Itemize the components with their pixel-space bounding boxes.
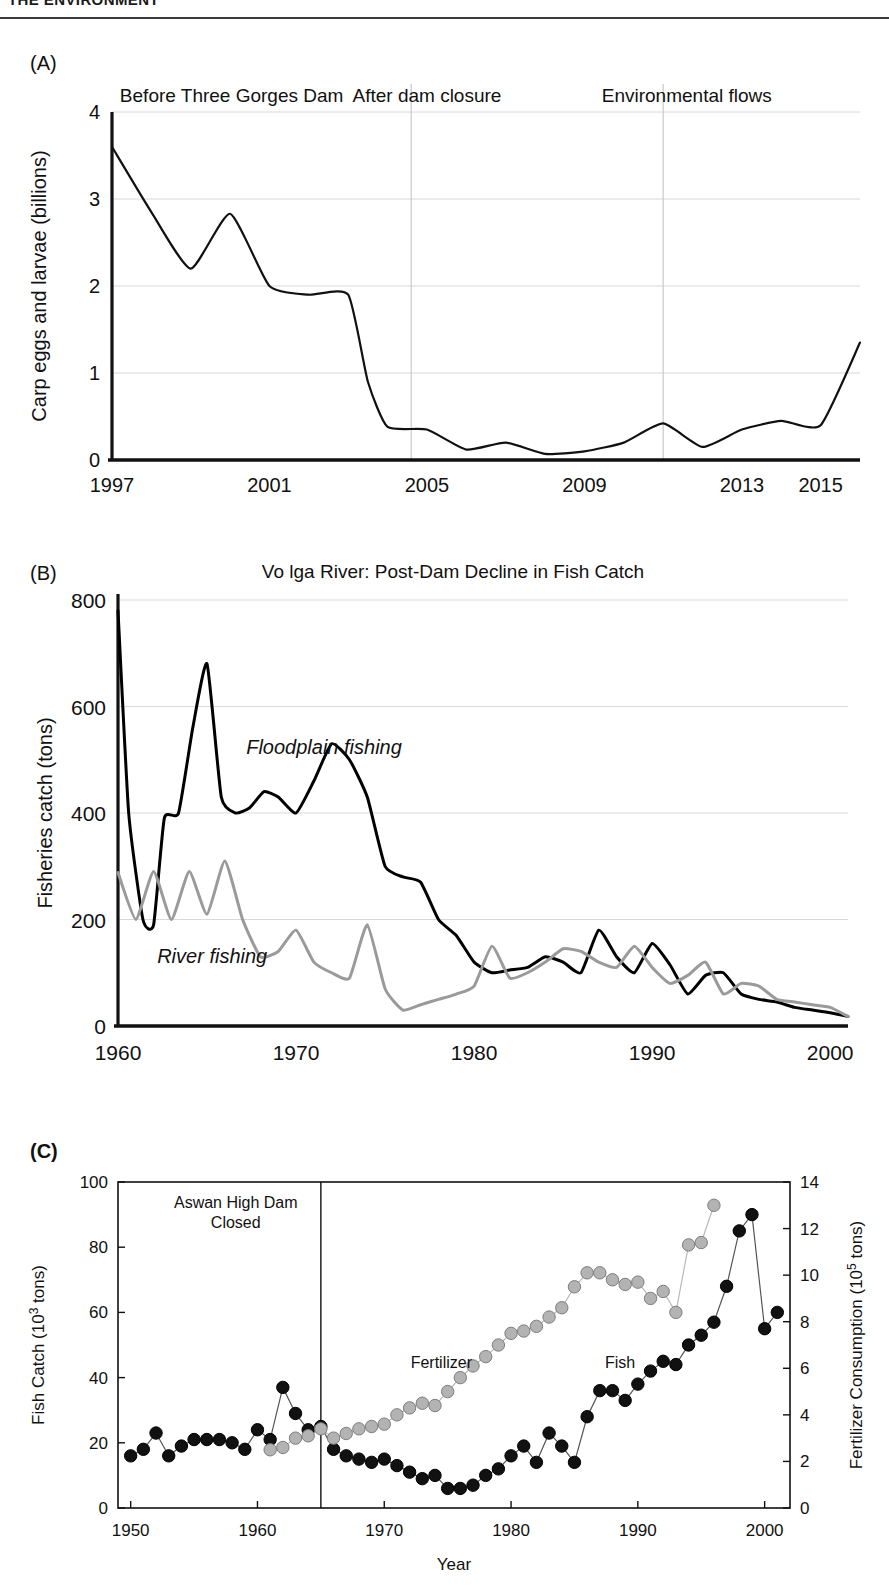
marker-fish <box>226 1437 238 1449</box>
marker-fertilizer <box>315 1423 327 1435</box>
x-tick-label-b: 1980 <box>451 1041 498 1064</box>
marker-fish <box>327 1443 339 1455</box>
x-tick-label-a: 2013 <box>720 474 765 496</box>
marker-fertilizer <box>441 1385 453 1397</box>
marker-fish <box>695 1329 707 1341</box>
y-tick-label-c-left: 0 <box>99 1499 108 1518</box>
y-tick-label-c-right: 0 <box>800 1499 809 1518</box>
marker-fertilizer <box>657 1285 669 1297</box>
y-tick-label-c-right: 10 <box>800 1266 819 1285</box>
marker-fish <box>581 1411 593 1423</box>
marker-fish <box>378 1453 390 1465</box>
marker-fish <box>188 1433 200 1445</box>
marker-fertilizer <box>568 1281 580 1293</box>
marker-fish <box>720 1280 732 1292</box>
marker-fertilizer <box>682 1239 694 1251</box>
marker-fish <box>429 1469 441 1481</box>
marker-fish <box>150 1427 162 1439</box>
marker-fish <box>518 1440 530 1452</box>
marker-fish <box>277 1381 289 1393</box>
y-tick-label-a: 1 <box>89 362 100 384</box>
marker-fish <box>758 1323 770 1335</box>
marker-fish <box>556 1440 568 1452</box>
marker-fertilizer <box>429 1399 441 1411</box>
marker-fertilizer <box>543 1311 555 1323</box>
series-line-carp <box>112 147 860 454</box>
marker-fish <box>644 1365 656 1377</box>
marker-fertilizer <box>340 1427 352 1439</box>
header-rule <box>0 17 889 19</box>
x-tick-label-a: 1997 <box>90 474 135 496</box>
x-tick-label-a: 2005 <box>405 474 450 496</box>
marker-fertilizer <box>492 1339 504 1351</box>
marker-fish <box>479 1469 491 1481</box>
marker-fertilizer <box>302 1430 314 1442</box>
marker-fertilizer <box>505 1327 517 1339</box>
marker-fish <box>682 1339 694 1351</box>
marker-fertilizer <box>594 1267 606 1279</box>
x-tick-label-a: 2015 <box>798 474 843 496</box>
y-tick-label-c-right: 8 <box>800 1313 809 1332</box>
marker-fish <box>670 1358 682 1370</box>
y-tick-label-c-right: 2 <box>800 1452 809 1471</box>
marker-fertilizer <box>606 1274 618 1286</box>
figure-page: THE ENVIRONMENT (A) 01234199720012005200… <box>0 0 889 1585</box>
chart-c-body: 0204060801000246810121419501960197019801… <box>27 1173 866 1574</box>
y-tick-label-b: 800 <box>71 589 106 612</box>
y-tick-label-c-right: 12 <box>800 1220 819 1239</box>
marker-fish <box>632 1378 644 1390</box>
series-label-fish: Fish <box>605 1354 635 1371</box>
y-tick-label-a: 0 <box>89 449 100 471</box>
marker-fish <box>239 1443 251 1455</box>
annotation-aswan-line1: Aswan High Dam <box>174 1194 298 1211</box>
x-axis-title-c: Year <box>437 1555 472 1574</box>
marker-fish <box>606 1384 618 1396</box>
series-label-river: River fishing <box>157 945 267 967</box>
y-axis-title-c-left: Fish Catch (103 tons) <box>27 1265 48 1425</box>
y-tick-label-a: 4 <box>89 101 100 123</box>
x-tick-label-b: 1970 <box>273 1041 320 1064</box>
y-tick-label-a: 2 <box>89 275 100 297</box>
marker-fertilizer <box>327 1432 339 1444</box>
y-axis-title-c-right: Fertilizer Consumption (105 tons) <box>845 1221 866 1470</box>
y-tick-label-b: 400 <box>71 802 106 825</box>
marker-fish <box>657 1355 669 1367</box>
y-tick-label-c-right: 6 <box>800 1359 809 1378</box>
chart-b-body: Vo lga River: Post-Dam Decline in Fish C… <box>34 561 854 1064</box>
marker-fish <box>530 1456 542 1468</box>
marker-fish <box>492 1463 504 1475</box>
chart-a-body: 01234199720012005200920132015Before Thre… <box>28 84 860 496</box>
marker-fish <box>619 1394 631 1406</box>
marker-fish <box>340 1450 352 1462</box>
y-tick-label-c-left: 60 <box>89 1303 108 1322</box>
marker-fertilizer <box>619 1278 631 1290</box>
marker-fish <box>391 1459 403 1471</box>
marker-fish <box>416 1472 428 1484</box>
marker-fish <box>353 1453 365 1465</box>
y-tick-label-c-left: 40 <box>89 1369 108 1388</box>
y-tick-label-b: 200 <box>71 909 106 932</box>
x-tick-label-c: 1990 <box>619 1521 657 1540</box>
marker-fish <box>124 1450 136 1462</box>
chart-c: 0204060801000246810121419501960197019801… <box>0 1150 889 1580</box>
marker-fertilizer <box>644 1292 656 1304</box>
chart-a: 01234199720012005200920132015Before Thre… <box>0 70 889 510</box>
y-tick-label-b: 600 <box>71 696 106 719</box>
x-tick-label-b: 1960 <box>95 1041 142 1064</box>
marker-fertilizer <box>403 1402 415 1414</box>
marker-fertilizer <box>353 1423 365 1435</box>
marker-fertilizer <box>378 1418 390 1430</box>
x-tick-label-a: 2009 <box>562 474 607 496</box>
x-tick-label-b: 2000 <box>807 1041 854 1064</box>
marker-fish <box>594 1384 606 1396</box>
marker-fish <box>568 1456 580 1468</box>
marker-fish <box>365 1456 377 1468</box>
series-line-fertilizer <box>270 1205 714 1450</box>
marker-fertilizer <box>556 1302 568 1314</box>
x-tick-label-c: 1960 <box>239 1521 277 1540</box>
x-tick-label-c: 1970 <box>365 1521 403 1540</box>
y-tick-label-b: 0 <box>94 1015 106 1038</box>
marker-fertilizer <box>581 1267 593 1279</box>
marker-fertilizer <box>264 1444 276 1456</box>
marker-fertilizer <box>454 1371 466 1383</box>
